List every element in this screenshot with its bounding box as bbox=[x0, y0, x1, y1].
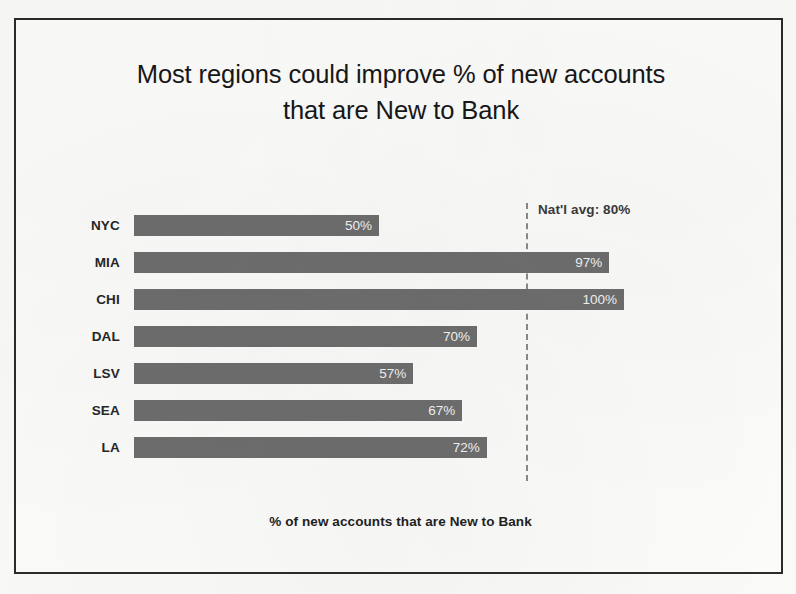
bar-value-label: 67% bbox=[134, 400, 462, 421]
bar-value-label: 57% bbox=[134, 363, 413, 384]
bar-row: MIA97% bbox=[16, 244, 785, 281]
bar-category-label: SEA bbox=[58, 392, 120, 429]
bar-row: SEA67% bbox=[16, 392, 785, 429]
x-axis-title: % of new accounts that are New to Bank bbox=[16, 514, 785, 529]
bar-track: 67% bbox=[134, 400, 785, 421]
bar-value-label: 97% bbox=[134, 252, 609, 273]
bar-track: 72% bbox=[134, 437, 785, 458]
chart-plot-area: Nat'l avg: 80% % of new accounts that ar… bbox=[16, 20, 785, 576]
bar-category-label: LSV bbox=[58, 355, 120, 392]
bar-category-label: LA bbox=[58, 429, 120, 466]
bar-track: 57% bbox=[134, 363, 785, 384]
bar-row: LSV57% bbox=[16, 355, 785, 392]
bar-value-label: 72% bbox=[134, 437, 487, 458]
bar-value-label: 70% bbox=[134, 326, 477, 347]
bar-category-label: DAL bbox=[58, 318, 120, 355]
bar-track: 70% bbox=[134, 326, 785, 347]
slide-frame: Most regions could improve % of new acco… bbox=[14, 18, 783, 574]
bar-track: 97% bbox=[134, 252, 785, 273]
bar-row: CHI100% bbox=[16, 281, 785, 318]
bar-value-label: 100% bbox=[134, 289, 624, 310]
bar-row: DAL70% bbox=[16, 318, 785, 355]
bar-track: 100% bbox=[134, 289, 785, 310]
bar-value-label: 50% bbox=[134, 215, 379, 236]
bar-category-label: MIA bbox=[58, 244, 120, 281]
bar-row: NYC50% bbox=[16, 207, 785, 244]
bar-track: 50% bbox=[134, 215, 785, 236]
bar-category-label: NYC bbox=[58, 207, 120, 244]
slide-canvas: Most regions could improve % of new acco… bbox=[0, 0, 796, 594]
bar-row: LA72% bbox=[16, 429, 785, 466]
bar-category-label: CHI bbox=[58, 281, 120, 318]
